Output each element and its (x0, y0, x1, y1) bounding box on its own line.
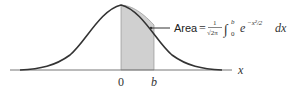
exponent: −x²/2 (247, 19, 263, 27)
axis-label-x: x (237, 63, 244, 77)
lower-limit: 0 (231, 30, 235, 38)
frac-numerator: 1 (213, 19, 217, 27)
normal-curve-diagram: 0 b x Area = 1 √2π ∫ b 0 e −x²/2 dx (0, 0, 306, 99)
integral-sign: ∫ (223, 22, 229, 38)
tick-b: b (151, 75, 157, 89)
equals-sign: = (199, 21, 206, 35)
integrand-e: e (240, 21, 246, 35)
tick-zero: 0 (118, 75, 124, 89)
frac-denominator: √2π (207, 29, 218, 37)
area-word: Area (174, 22, 198, 34)
upper-limit: b (231, 18, 235, 26)
differential: dx (275, 21, 287, 35)
